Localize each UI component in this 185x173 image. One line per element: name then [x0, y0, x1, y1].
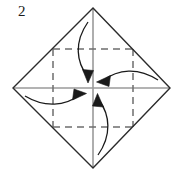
fold-left-to-center-arrow-head — [73, 89, 87, 100]
fold-right-to-center-arrow-path — [103, 71, 158, 80]
origami-figure: 2 — [0, 0, 185, 173]
axis-lines-group — [13, 8, 170, 168]
fold-right-to-center-arrow-head — [97, 76, 111, 87]
fold-bottom-to-center-arrow-head — [93, 94, 104, 108]
origami-diagram — [0, 0, 185, 173]
fold-bottom-to-center-arrow — [93, 94, 108, 156]
fold-top-to-center-arrow — [78, 22, 93, 83]
fold-left-to-center-arrow — [25, 89, 87, 104]
fold-right-to-center-arrow — [97, 71, 159, 86]
fold-top-to-center-arrow-head — [83, 70, 94, 84]
